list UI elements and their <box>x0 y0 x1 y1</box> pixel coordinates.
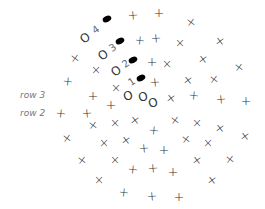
single-crochet-cross-icon: × <box>224 152 236 165</box>
round-number: 4 <box>91 24 102 36</box>
single-crochet-cross-icon: × <box>203 137 213 149</box>
row-label: row 3 <box>20 91 45 100</box>
slip-stitch-dot-icon <box>115 36 126 45</box>
single-crochet-plus-icon: + <box>62 74 74 88</box>
row-label: row 2 <box>20 109 45 118</box>
single-crochet-plus-icon: + <box>127 162 139 176</box>
single-crochet-cross-icon: × <box>192 117 202 129</box>
single-crochet-plus-icon: + <box>168 165 179 178</box>
single-crochet-cross-icon: × <box>120 133 132 146</box>
single-crochet-plus-icon: + <box>118 185 130 199</box>
single-crochet-plus-icon: + <box>147 55 158 68</box>
single-crochet-cross-icon: × <box>206 173 218 186</box>
single-crochet-plus-icon: + <box>88 89 99 102</box>
single-crochet-cross-icon: × <box>99 137 109 149</box>
single-crochet-cross-icon: × <box>182 73 194 86</box>
single-crochet-cross-icon: × <box>180 132 192 145</box>
single-crochet-cross-icon: × <box>175 37 185 49</box>
single-crochet-plus-icon: + <box>150 31 162 45</box>
single-crochet-plus-icon: + <box>147 161 159 175</box>
single-crochet-cross-icon: × <box>165 91 177 104</box>
single-crochet-plus-icon: + <box>134 33 146 47</box>
chain-stitch-icon: O <box>147 96 159 110</box>
single-crochet-plus-icon: + <box>154 6 165 19</box>
single-crochet-plus-icon: + <box>149 75 161 89</box>
single-crochet-cross-icon: × <box>239 129 251 142</box>
single-crochet-plus-icon: + <box>127 8 139 22</box>
chain-stitch-icon: O <box>122 89 134 103</box>
single-crochet-plus-icon: + <box>215 92 227 106</box>
single-crochet-cross-icon: × <box>61 131 73 144</box>
single-crochet-cross-icon: × <box>94 174 104 186</box>
single-crochet-cross-icon: × <box>91 64 101 76</box>
single-crochet-cross-icon: × <box>169 113 181 126</box>
single-crochet-cross-icon: × <box>110 117 120 129</box>
single-crochet-cross-icon: × <box>185 15 197 28</box>
single-crochet-plus-icon: + <box>174 190 185 203</box>
single-crochet-cross-icon: × <box>87 118 99 131</box>
slip-stitch-dot-icon <box>102 14 113 23</box>
single-crochet-cross-icon: × <box>129 113 141 126</box>
single-crochet-cross-icon: × <box>69 51 81 64</box>
single-crochet-cross-icon: × <box>111 82 121 94</box>
single-crochet-plus-icon: + <box>138 141 150 155</box>
single-crochet-cross-icon: × <box>208 72 220 85</box>
chain-stitch-icon: O <box>96 47 111 62</box>
single-crochet-cross-icon: × <box>76 153 88 166</box>
single-crochet-cross-icon: × <box>214 34 226 47</box>
single-crochet-cross-icon: × <box>197 52 209 65</box>
single-crochet-plus-icon: + <box>148 123 160 137</box>
single-crochet-plus-icon: + <box>106 98 117 111</box>
single-crochet-plus-icon: + <box>146 189 158 203</box>
single-crochet-plus-icon: + <box>241 94 252 107</box>
chain-stitch-icon: O <box>78 30 93 45</box>
single-crochet-plus-icon: + <box>55 106 67 120</box>
single-crochet-plus-icon: + <box>188 88 200 102</box>
slip-stitch-dot-icon <box>128 55 139 64</box>
single-crochet-plus-icon: + <box>159 143 170 156</box>
single-crochet-cross-icon: × <box>162 58 172 70</box>
crochet-chart: row 3row 2 O4O3O21OOO ++++++++++++++++++… <box>0 0 265 209</box>
single-crochet-cross-icon: × <box>110 154 120 166</box>
single-crochet-cross-icon: × <box>214 121 226 134</box>
slip-stitch-dot-icon <box>136 73 147 82</box>
single-crochet-cross-icon: × <box>191 153 203 166</box>
chain-stitch-icon: O <box>109 63 124 78</box>
single-crochet-cross-icon: × <box>233 60 245 73</box>
